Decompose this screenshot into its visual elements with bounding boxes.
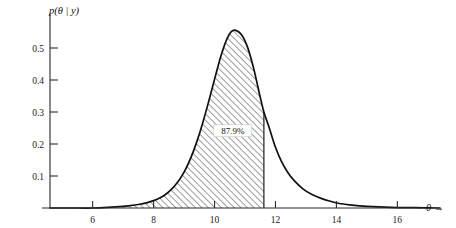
probability-annotation: 87.9% [214,125,252,137]
shaded-credible-region [50,30,440,208]
y-tick-label: 0.3 [32,108,44,118]
y-axis-ticks [50,48,58,176]
y-axis-tick-labels: 0.1 0.2 0.3 0.4 0.5 [32,44,44,182]
y-axis-title: p(θ | y) [48,5,80,17]
x-tick-label: 6 [90,215,95,225]
y-tick-label: 0.2 [32,140,44,150]
x-axis-title: θ → [426,202,444,213]
x-axis-tick-labels: 6 8 10 12 14 16 [90,215,402,225]
y-tick-label: 0.4 [32,76,44,86]
x-tick-label: 8 [151,215,156,225]
annotation-label: 87.9% [221,126,245,136]
y-tick-label: 0.1 [32,172,44,182]
x-tick-label: 12 [271,215,281,225]
x-tick-label: 14 [332,215,342,225]
y-tick-label: 0.5 [32,44,44,54]
x-tick-label: 16 [393,215,403,225]
chart-canvas: 6 8 10 12 14 16 0.1 0.2 0.3 0.4 0.5 p(θ … [0,0,456,228]
x-tick-label: 10 [210,215,220,225]
